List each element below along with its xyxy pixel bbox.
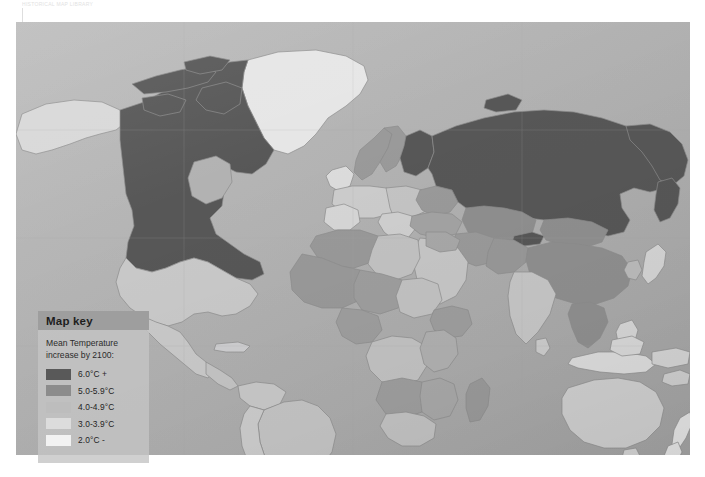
legend-item[interactable]: 4.0-4.9°C [46,399,149,416]
legend-item[interactable]: 3.0-3.9°C [46,416,149,433]
legend-swatch-5-0-5-9 [46,385,71,396]
legend-header: Map key [38,311,149,330]
region-new-guinea [652,348,690,368]
page-root: HISTORICAL MAP LIBRARY [0,0,705,477]
map-key-legend[interactable]: Map key Mean Temperature increase by 210… [38,311,149,463]
legend-swatch-3-0-3-9 [46,418,71,429]
legend-swatch-2-0-minus [46,435,71,446]
top-caption: HISTORICAL MAP LIBRARY [22,0,182,8]
legend-items: 6.0°C + 5.0-5.9°C 4.0-4.9°C 3.0-3.9°C 2. [46,366,149,449]
legend-item[interactable]: 6.0°C + [46,366,149,383]
legend-title: Map key [46,315,93,327]
legend-label-2-0-minus: 2.0°C - [78,435,105,445]
legend-item[interactable]: 2.0°C - [46,432,149,449]
legend-item[interactable]: 5.0-5.9°C [46,383,149,400]
legend-body: Mean Temperature increase by 2100: 6.0°C… [38,330,149,449]
top-rule-divider [22,8,23,22]
legend-label-5-0-5-9: 5.0-5.9°C [78,386,114,396]
legend-label-6-plus: 6.0°C + [78,369,107,379]
legend-label-3-0-3-9: 3.0-3.9°C [78,419,114,429]
legend-swatch-4-0-4-9 [46,402,71,413]
legend-swatch-6-plus [46,369,71,380]
legend-subtitle: Mean Temperature increase by 2100: [46,338,144,361]
legend-label-4-0-4-9: 4.0-4.9°C [78,402,114,412]
